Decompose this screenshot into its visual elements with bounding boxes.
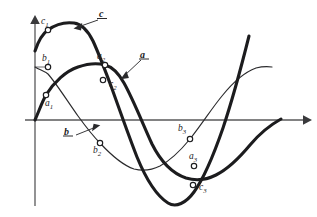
marker-a1 — [43, 92, 48, 97]
point-label-a2: a2 — [97, 52, 105, 64]
horizontal-axis-arrowhead — [303, 115, 312, 125]
point-label-c1-sub: 1 — [45, 21, 49, 28]
point-label-c2-sub: 2 — [113, 84, 117, 91]
marker-b2 — [97, 140, 102, 145]
point-label-a1-sub: 1 — [50, 103, 54, 110]
leader-b-arrowhead — [92, 124, 100, 132]
point-label-b1: b1 — [42, 54, 50, 66]
point-label-c1: c1 — [41, 17, 49, 29]
axes-group — [25, 15, 312, 206]
point-label-c3-sub: 3 — [203, 187, 207, 194]
point-label-a3: a3 — [189, 152, 197, 164]
point-label-a1: a1 — [45, 99, 53, 111]
marker-c2 — [100, 77, 105, 82]
marker-a3 — [191, 163, 196, 168]
point-label-b1-sub: 1 — [47, 58, 51, 65]
vertical-axis-arrowhead — [30, 15, 40, 24]
point-label-b2: b2 — [93, 146, 101, 158]
point-label-b2-sub: 2 — [98, 150, 102, 157]
curve-label-c: c — [99, 9, 103, 19]
marker-c3 — [190, 182, 195, 187]
curve-label-a: a — [140, 50, 145, 60]
point-label-b3: b3 — [178, 124, 186, 136]
point-label-a2-sub: 2 — [102, 56, 106, 63]
point-label-b3-sub: 3 — [183, 128, 187, 135]
point-label-c2: c2 — [109, 80, 117, 92]
curve-label-b: b — [64, 127, 69, 137]
marker-b3 — [187, 136, 192, 141]
point-label-a3-sub: 3 — [194, 156, 198, 163]
curve-a — [35, 64, 281, 180]
waveform-figure: c a b c1 b1 a1 a2 c2 b2 b3 a3 c3 — [0, 0, 317, 217]
point-label-c3: c3 — [199, 183, 207, 195]
leaders-group — [63, 19, 149, 137]
